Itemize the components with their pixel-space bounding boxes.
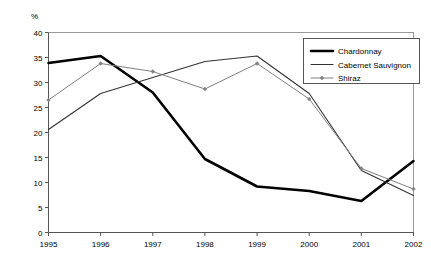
x-axis-tick-label: 2001 [352, 240, 370, 249]
legend-label: Shiraz [338, 74, 361, 83]
x-axis-tick-label: 1997 [144, 240, 162, 249]
series-marker-shiraz [151, 70, 155, 74]
y-axis-tick-label: 15 [34, 154, 43, 163]
y-axis-tick-label: 0 [38, 229, 43, 238]
y-axis-tick-label: 35 [34, 54, 43, 63]
y-axis-tick-label: 10 [34, 179, 43, 188]
x-axis-ticks: 19951996199719981999200020012002 [40, 233, 423, 249]
x-axis-tick-label: 1999 [248, 240, 266, 249]
y-axis-tick-label: 30 [34, 79, 43, 88]
series-marker-shiraz [203, 87, 207, 91]
legend-label: Chardonnay [338, 47, 382, 56]
y-axis-tick-label: 25 [34, 104, 43, 113]
x-axis-tick-label: 1995 [40, 240, 58, 249]
series-marker-shiraz [412, 187, 416, 191]
legend-label: Cabernet Sauvignon [338, 61, 411, 70]
chart-container: % 0510152025303540 199519961997199819992… [0, 0, 431, 270]
y-axis-unit-label-text: % [31, 12, 38, 21]
x-axis-tick-label: 2002 [405, 240, 423, 249]
x-axis-tick-label: 1996 [92, 240, 110, 249]
y-axis-tick-label: 5 [38, 204, 43, 213]
x-axis-tick-label: 1998 [196, 240, 214, 249]
line-chart: % 0510152025303540 199519961997199819992… [0, 0, 431, 270]
y-axis-tick-label: 20 [34, 129, 43, 138]
y-axis-tick-label: 40 [34, 29, 43, 38]
chart-legend: ChardonnayCabernet SauvignonShiraz [304, 39, 420, 84]
y-axis-ticks: 0510152025303540 [34, 29, 49, 238]
y-axis-unit-label: % [31, 12, 38, 21]
x-axis-tick-label: 2000 [300, 240, 318, 249]
